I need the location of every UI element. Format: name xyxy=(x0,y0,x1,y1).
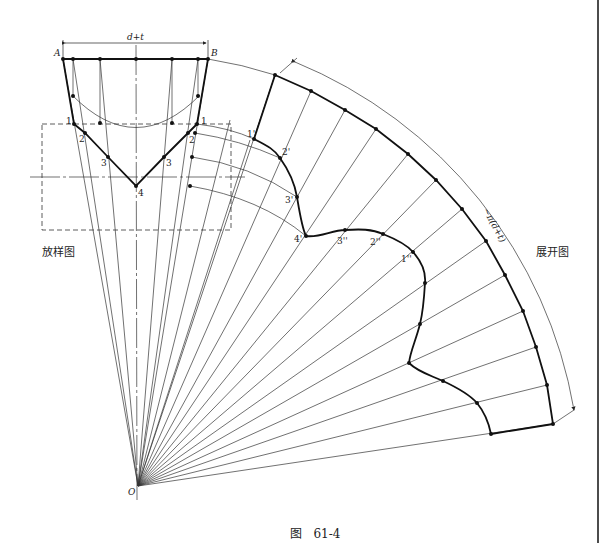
figure-caption: 图 61-4 xyxy=(290,524,340,541)
caption-prefix: 图 xyxy=(290,527,302,541)
dimension-dt xyxy=(63,40,208,58)
layout-label: 放样图 xyxy=(42,243,75,259)
label-B: B xyxy=(210,48,218,58)
label-2pp: 2'' xyxy=(370,237,381,247)
label-left-3: 3 xyxy=(101,158,107,168)
vertical-centerline xyxy=(136,45,137,500)
label-O: O xyxy=(128,487,136,497)
construction-points xyxy=(61,57,555,436)
label-left-2: 2 xyxy=(79,134,85,144)
label-A: A xyxy=(53,48,61,58)
label-3pp: 3'' xyxy=(337,236,348,246)
projection-lines xyxy=(73,59,198,123)
label-right-1: 1 xyxy=(201,116,207,126)
label-1pp: 1'' xyxy=(401,254,412,264)
label-2p: 2' xyxy=(282,147,290,157)
label-4: 4 xyxy=(138,188,144,198)
development-label: 展开图 xyxy=(536,243,569,259)
label-4p: 4' xyxy=(294,234,302,244)
label-right-3: 3 xyxy=(166,158,172,168)
drawing-canvas: A B d+t O 1 2 3 4 3 2 1 1' 2' 3' 4' 3'' … xyxy=(0,0,614,543)
label-right-2: 2 xyxy=(189,135,195,145)
label-dt: d+t xyxy=(127,32,144,42)
layout-outline xyxy=(63,59,208,186)
label-1p: 1' xyxy=(247,129,255,139)
label-left-1: 1 xyxy=(66,116,72,126)
caption-number: 61-4 xyxy=(313,527,340,541)
label-3p: 3' xyxy=(285,195,293,205)
